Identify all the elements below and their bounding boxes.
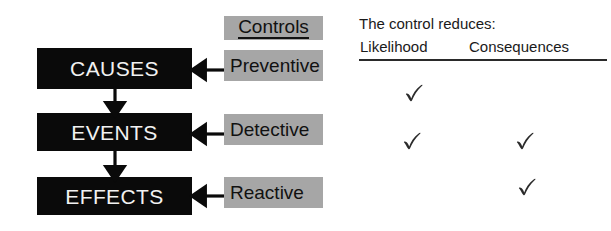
column-header-likelihood: Likelihood: [360, 39, 428, 54]
chain-box-label: EVENTS: [71, 122, 157, 143]
check-mark-icon: [402, 130, 424, 152]
control-box-reactive: Reactive: [224, 177, 323, 208]
check-mark-icon: [517, 176, 539, 198]
diagram-canvas: CAUSES EVENTS EFFECTS Controls Preventiv…: [0, 0, 611, 231]
control-box-preventive: Preventive: [224, 50, 323, 81]
control-effect-table: The control reduces: Likelihood Conseque…: [359, 16, 609, 216]
chain-box-effects: EFFECTS: [37, 177, 192, 215]
control-box-label: Preventive: [230, 56, 320, 75]
table-header-rule: [359, 59, 607, 61]
chain-box-label: CAUSES: [70, 58, 159, 79]
check-mark-icon: [515, 130, 537, 152]
control-box-label: Reactive: [230, 183, 304, 202]
control-box-label: Detective: [230, 120, 309, 139]
chain-box-label: EFFECTS: [65, 186, 163, 207]
control-box-detective: Detective: [224, 114, 323, 145]
column-header-consequences: Consequences: [469, 39, 569, 54]
check-mark-icon: [404, 82, 426, 104]
controls-header-label: Controls: [238, 17, 309, 39]
table-caption: The control reduces:: [359, 16, 496, 31]
controls-header-box: Controls: [224, 16, 323, 40]
chain-box-events: EVENTS: [37, 113, 192, 151]
chain-box-causes: CAUSES: [37, 48, 192, 89]
